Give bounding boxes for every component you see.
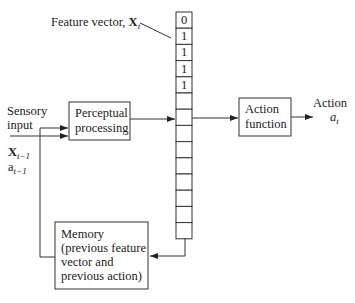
feature-vector-value: 1 [181, 62, 187, 76]
vector-to-memory-arrow [150, 238, 185, 256]
feature-vector-pointer [140, 23, 171, 38]
feature-vector: 01111 [176, 12, 192, 239]
action-box-line2: function [245, 117, 287, 131]
action-output-symbol: at [330, 110, 339, 126]
perceptual-box-line2: processing [75, 121, 129, 135]
feature-vector-cell [176, 190, 192, 206]
agent-diagram: Feature vector, Xt 01111 Sensory input X… [0, 0, 355, 303]
sensory-input-label-line2: input [7, 118, 33, 132]
prev-feature-vector-label: Xt−1 [8, 145, 30, 161]
feature-vector-cell [176, 142, 192, 158]
prev-action-label: at−1 [8, 160, 27, 176]
action-box-line1: Action [245, 102, 280, 116]
feature-vector-value: 1 [181, 29, 187, 43]
feature-vector-label: Feature vector, Xt [51, 15, 141, 31]
feature-vector-cell [176, 174, 192, 190]
memory-box-line1: Memory [61, 227, 105, 241]
perceptual-box-line1: Perceptual [75, 106, 128, 120]
feature-vector-cell [176, 125, 192, 141]
feature-vector-value: 0 [181, 13, 187, 27]
feature-vector-cell [176, 93, 192, 109]
feature-vector-cell [176, 223, 192, 239]
memory-box-line4: previous action) [61, 269, 142, 283]
feature-vector-value: 1 [181, 45, 187, 59]
action-output-label: Action [313, 96, 348, 110]
memory-box-line2: (previous feature [61, 241, 146, 255]
sensory-input-label-line1: Sensory [7, 104, 48, 118]
feature-vector-cell [176, 158, 192, 174]
feature-vector-value: 1 [181, 78, 187, 92]
feature-vector-cell [176, 206, 192, 222]
memory-box-line3: vector and [61, 255, 114, 269]
feature-vector-cell [176, 109, 192, 125]
